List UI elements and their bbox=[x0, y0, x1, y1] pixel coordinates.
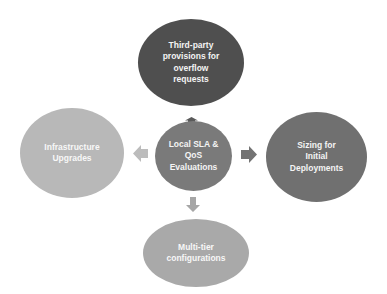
arrow-up-icon bbox=[185, 110, 198, 117]
node-local-sla-qos-center: Local SLA & QoS Evaluations bbox=[155, 121, 232, 191]
node-multi-tier-configurations: Multi-tier configurations bbox=[143, 219, 249, 287]
node-right-label: Sizing for Initial Deployments bbox=[290, 140, 343, 174]
node-center-label: Local SLA & QoS Evaluations bbox=[169, 139, 219, 173]
node-bottom-label: Multi-tier configurations bbox=[166, 242, 225, 264]
node-infrastructure-upgrades: Infrastructure Upgrades bbox=[20, 108, 124, 198]
arrow-left-icon bbox=[133, 145, 148, 162]
arrow-right-icon bbox=[241, 146, 257, 163]
node-sizing-initial-deployments: Sizing for Initial Deployments bbox=[266, 112, 367, 202]
node-left-label: Infrastructure Upgrades bbox=[44, 142, 99, 164]
node-third-party-provisions: Third-party provisions for overflow requ… bbox=[138, 19, 244, 106]
arrow-down-icon bbox=[186, 197, 200, 212]
node-top-label: Third-party provisions for overflow requ… bbox=[163, 40, 220, 85]
